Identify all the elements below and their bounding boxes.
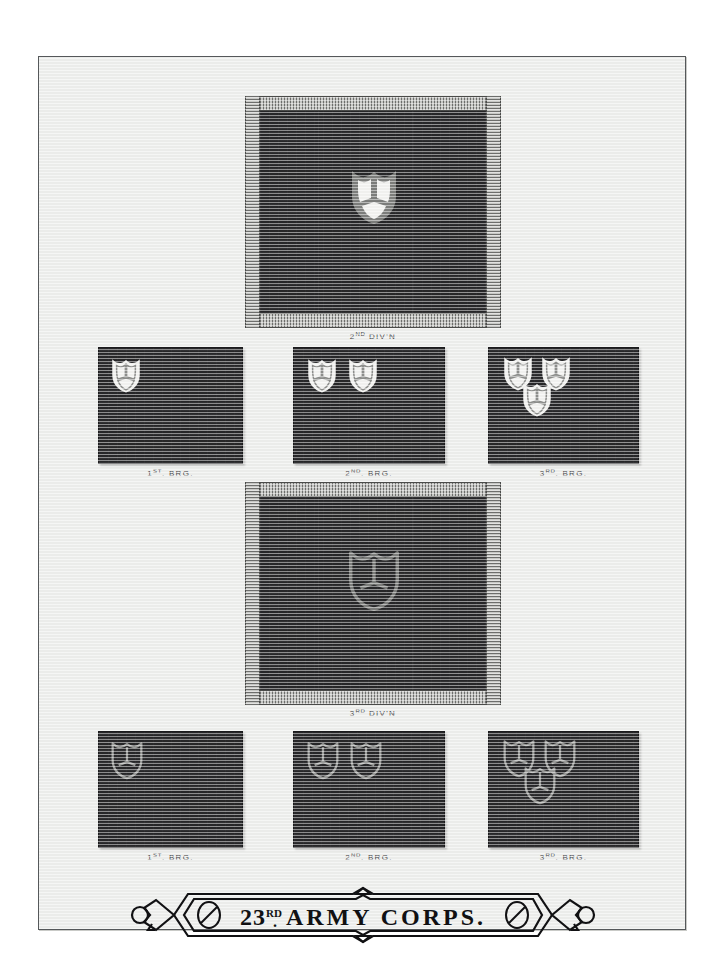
caption-ordinal: ND bbox=[356, 331, 366, 337]
banner-title-text: 23RD. ARMY CORPS. bbox=[128, 905, 598, 930]
shield-badge-filled bbox=[522, 381, 552, 418]
badge-layer bbox=[260, 497, 486, 690]
caption-ordinal: ND bbox=[351, 468, 361, 474]
flag-inner bbox=[294, 732, 444, 847]
caption-tail: . BRG. bbox=[555, 853, 587, 862]
badge-layer bbox=[99, 348, 242, 463]
caption-ordinal: RD bbox=[546, 468, 556, 474]
caption-3rd-div-2nd-brg: 2ND. BRG. bbox=[293, 852, 445, 862]
banner-title-ordinal-dot: . bbox=[273, 913, 277, 930]
caption-division-third: 3RD DIV'N bbox=[245, 708, 501, 718]
badge-layer bbox=[294, 348, 444, 463]
flag-fringe-top bbox=[245, 96, 501, 111]
shield-badge-outline bbox=[307, 741, 339, 780]
shield-badge-outline bbox=[348, 549, 400, 612]
caption-ordinal: RD bbox=[546, 852, 556, 858]
flag-fringe-right bbox=[486, 482, 501, 705]
flag-fringe-right bbox=[486, 96, 501, 328]
flag-inner bbox=[260, 111, 486, 313]
banner-title-number: 23 bbox=[240, 904, 266, 930]
flag-fringe-bottom bbox=[245, 690, 501, 705]
flag-inner bbox=[260, 497, 486, 690]
brigade-flag-3rd-div-3rd-brg[interactable] bbox=[488, 731, 639, 848]
caption-ordinal: ST bbox=[153, 468, 162, 474]
shield-badge-filled bbox=[111, 357, 141, 394]
caption-tail: . BRG. bbox=[162, 469, 194, 478]
brigade-flag-2nd-div-1st-brg[interactable] bbox=[98, 347, 243, 464]
caption-3rd-div-3rd-brg: 3RD. BRG. bbox=[488, 852, 639, 862]
flag-inner bbox=[294, 348, 444, 463]
shield-badge-filled bbox=[350, 168, 398, 226]
caption-tail: . BRG. bbox=[361, 469, 393, 478]
shield-badge-outline bbox=[524, 766, 556, 805]
title-banner: 23RD. ARMY CORPS. bbox=[128, 884, 598, 946]
caption-ordinal: ND bbox=[351, 852, 361, 858]
caption-tail: . BRG. bbox=[555, 469, 587, 478]
caption-2nd-div-2nd-brg: 2ND. BRG. bbox=[293, 468, 445, 478]
plate-paper: 2ND DIV'N 1ST. bbox=[38, 56, 686, 930]
caption-2nd-div-3rd-brg: 3RD. BRG. bbox=[488, 468, 639, 478]
caption-division-second: 2ND DIV'N bbox=[245, 331, 501, 341]
division-flag-second[interactable] bbox=[245, 96, 501, 328]
brigade-flag-3rd-div-2nd-brg[interactable] bbox=[293, 731, 445, 848]
shield-badge-outline bbox=[350, 741, 382, 780]
caption-tail: DIV'N bbox=[365, 332, 396, 341]
caption-tail: . BRG. bbox=[361, 853, 393, 862]
brigade-flag-2nd-div-2nd-brg[interactable] bbox=[293, 347, 445, 464]
shield-badge-filled bbox=[307, 357, 337, 394]
flag-inner bbox=[99, 732, 242, 847]
shield-badge-outline bbox=[111, 741, 143, 780]
badge-layer bbox=[294, 732, 444, 847]
flag-inner bbox=[99, 348, 242, 463]
badge-layer bbox=[489, 348, 638, 463]
caption-3rd-div-1st-brg: 1ST. BRG. bbox=[98, 852, 243, 862]
caption-2nd-div-1st-brg: 1ST. BRG. bbox=[98, 468, 243, 478]
badge-layer bbox=[99, 732, 242, 847]
caption-tail: . BRG. bbox=[162, 853, 194, 862]
caption-ordinal: ST bbox=[153, 852, 162, 858]
flag-fringe-left bbox=[245, 482, 260, 705]
badge-layer bbox=[260, 111, 486, 313]
badge-layer bbox=[489, 732, 638, 847]
flag-plate-root: 2ND DIV'N 1ST. bbox=[0, 0, 723, 980]
caption-tail: DIV'N bbox=[365, 709, 396, 718]
brigade-flag-3rd-div-1st-brg[interactable] bbox=[98, 731, 243, 848]
brigade-flag-2nd-div-3rd-brg[interactable] bbox=[488, 347, 639, 464]
division-flag-third[interactable] bbox=[245, 482, 501, 705]
flag-inner bbox=[489, 348, 638, 463]
flag-fringe-left bbox=[245, 96, 260, 328]
flag-fringe-bottom bbox=[245, 313, 501, 328]
flag-fringe-top bbox=[245, 482, 501, 497]
caption-ordinal: RD bbox=[356, 708, 366, 714]
shield-badge-filled bbox=[348, 357, 378, 394]
flag-inner bbox=[489, 732, 638, 847]
banner-title-rest: ARMY CORPS. bbox=[286, 904, 486, 930]
